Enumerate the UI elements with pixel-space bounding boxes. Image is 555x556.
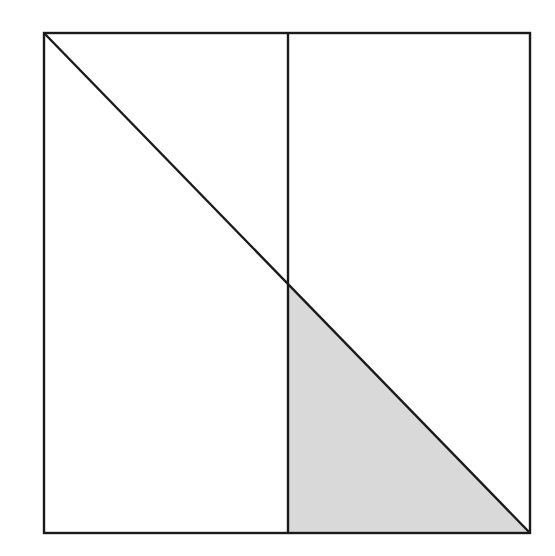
geometry-diagram: [0, 0, 555, 556]
